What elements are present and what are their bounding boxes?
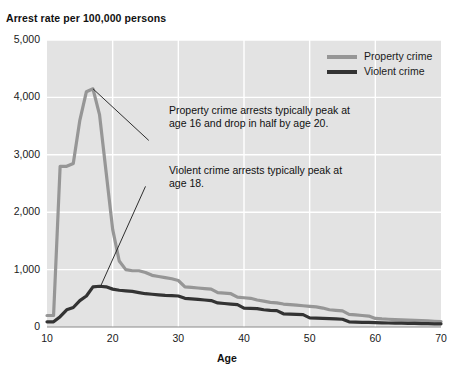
x-tick-label-10: 10 (27, 332, 67, 344)
y-tick-label-4000: 4,000 (0, 90, 40, 102)
x-tick-label-60: 60 (355, 332, 395, 344)
chart-title: Arrest rate per 100,000 persons (6, 12, 166, 24)
y-tick-label-5000: 5,000 (0, 33, 40, 45)
arrest-rate-line-chart: Arrest rate per 100,000 persons Age 01,0… (0, 0, 454, 375)
x-tick-label-50: 50 (290, 332, 330, 344)
x-axis-title: Age (0, 352, 454, 364)
violent-annotation: Violent crime arrests typically peak at … (169, 164, 342, 190)
y-tick-label-0: 0 (0, 320, 40, 332)
property-annotation: Property crime arrests typically peak at… (169, 104, 350, 130)
y-tick-label-2000: 2,000 (0, 205, 40, 217)
x-tick-label-30: 30 (158, 332, 198, 344)
legend-label-property-crime[interactable]: Property crime (364, 50, 432, 62)
legend-label-violent-crime[interactable]: Violent crime (364, 65, 425, 77)
y-tick-label-1000: 1,000 (0, 263, 40, 275)
x-tick-label-40: 40 (224, 332, 264, 344)
y-tick-label-3000: 3,000 (0, 148, 40, 160)
x-tick-label-70: 70 (421, 332, 454, 344)
x-tick-label-20: 20 (93, 332, 133, 344)
